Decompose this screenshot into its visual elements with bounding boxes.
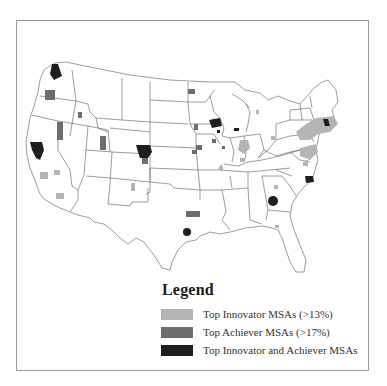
achiever-swatch	[161, 327, 193, 338]
msa-northeast-corridor	[296, 116, 338, 140]
msa-dallas	[186, 211, 200, 217]
msa-lincoln	[192, 150, 197, 154]
both-swatch	[161, 345, 193, 356]
innovator-swatch	[161, 309, 193, 320]
msa-madison	[234, 128, 239, 131]
both-msas	[30, 64, 330, 236]
msa-los-angeles	[40, 172, 48, 179]
legend-label: Top Achiever MSAs (>17%)	[203, 326, 330, 338]
msa-sf-bay	[30, 142, 44, 160]
msa-michigan	[256, 110, 259, 114]
msa-charlotte	[274, 185, 278, 189]
msa-iowa-1	[212, 139, 216, 143]
legend-label: Top Innovator MSAs (>13%)	[203, 308, 333, 320]
msa-iowa-2	[222, 146, 225, 149]
legend-item-both: Top Innovator and Achiever MSAs	[161, 341, 366, 359]
msa-boise	[78, 112, 82, 118]
msa-columbia-mo	[220, 166, 223, 170]
msa-detroit	[271, 136, 275, 140]
msa-va	[305, 160, 308, 163]
msa-albuquerque	[131, 183, 135, 191]
us-outline	[26, 62, 338, 272]
msa-fargo	[188, 89, 195, 94]
msa-tallahassee	[275, 225, 279, 228]
msa-salt-lake	[100, 136, 106, 150]
msa-dc-baltimore	[300, 144, 318, 160]
legend-item-achiever: Top Achiever MSAs (>17%)	[161, 323, 366, 341]
msa-rochester-mn	[217, 130, 220, 133]
msa-sioux-falls	[194, 124, 198, 130]
msa-portland	[45, 90, 55, 100]
msa-chicago	[238, 140, 250, 154]
legend-label: Top Innovator and Achiever MSAs	[203, 344, 357, 356]
legend-item-innovator: Top Innovator MSAs (>13%)	[161, 305, 366, 323]
msa-omaha	[196, 145, 202, 150]
legend: Legend Top Innovator MSAs (>13%) Top Ach…	[161, 281, 366, 359]
msa-seattle	[50, 64, 62, 80]
msa-raleigh-durham	[305, 176, 314, 183]
msa-sacramento	[57, 122, 63, 140]
legend-title: Legend	[162, 281, 366, 299]
msa-denver	[136, 145, 152, 158]
msa-austin	[183, 228, 191, 236]
msa-champaign	[240, 158, 245, 162]
msa-la-east	[54, 170, 60, 175]
msa-colorado-springs	[142, 158, 148, 164]
state-boundaries	[26, 62, 338, 272]
msa-minneapolis	[209, 118, 222, 128]
msa-san-diego	[56, 193, 64, 199]
msa-atlanta	[268, 196, 278, 206]
